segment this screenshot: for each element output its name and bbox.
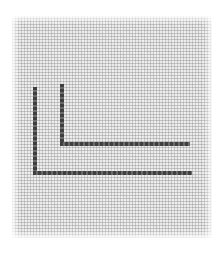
inner-l-vertical-stitch bbox=[60, 84, 64, 146]
inner-l-horizontal-stitch bbox=[60, 142, 190, 146]
outer-l-horizontal-stitch bbox=[33, 171, 192, 175]
outer-l-vertical-stitch bbox=[33, 87, 37, 175]
fabric-swatch bbox=[12, 16, 212, 238]
